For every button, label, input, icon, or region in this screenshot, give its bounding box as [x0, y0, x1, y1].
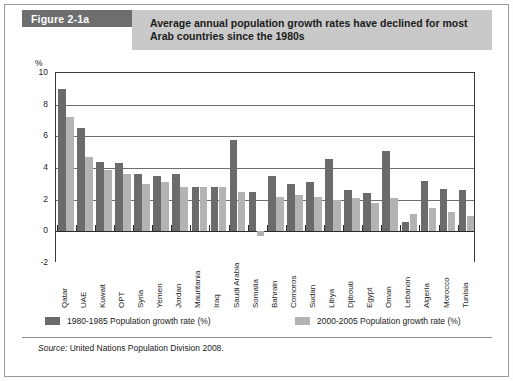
bar-group [266, 73, 285, 262]
bar [410, 214, 418, 231]
x-tick-label: UAE [79, 292, 88, 308]
legend-item: 1980-1985 Population growth rate (%) [45, 316, 211, 326]
legend-divider [22, 337, 492, 338]
legend-swatch [45, 317, 60, 325]
bar [295, 195, 303, 231]
figure-number-tab: Figure 2-1a [22, 10, 132, 27]
x-tick-label: Jordan [174, 284, 183, 308]
bar [161, 182, 169, 231]
bar [459, 190, 467, 231]
bar [448, 212, 456, 231]
axis-tick [400, 225, 401, 231]
bar [77, 128, 85, 231]
x-tick-label: Morocco [442, 277, 451, 308]
bar [352, 198, 360, 231]
bar-group [113, 73, 132, 262]
bar-group [247, 73, 266, 262]
bar [371, 203, 379, 232]
bar [314, 197, 322, 232]
y-tick-label: 8 [43, 99, 48, 109]
axis-tick [95, 225, 96, 231]
bar-group [342, 73, 361, 262]
bar [390, 198, 398, 231]
x-tick-label: Qatar [60, 288, 69, 308]
x-tick-label: OPT [117, 292, 126, 308]
bar-group [381, 73, 400, 262]
axis-tick [152, 225, 153, 231]
bar [172, 174, 180, 231]
axis-tick [419, 225, 420, 231]
bar [306, 182, 314, 231]
x-tick-label: Djibouti [346, 281, 355, 308]
bar [219, 187, 227, 231]
y-axis-tick-labels: -20246810 [0, 72, 52, 294]
plot-area [55, 72, 475, 262]
y-tick-label: 4 [43, 162, 48, 172]
y-tick-label: 2 [43, 194, 48, 204]
bar-group [400, 73, 419, 262]
axis-tick [458, 225, 459, 231]
bar [249, 192, 257, 232]
source-note: Source: United Nations Population Divisi… [38, 343, 224, 353]
bar-group [209, 73, 228, 262]
bar [467, 216, 475, 232]
y-tick-label: 10 [39, 67, 48, 77]
screenshot-root: Figure 2-1a Average annual population gr… [0, 0, 513, 381]
x-tick-label: Somalia [251, 279, 260, 308]
x-tick-label: Libya [327, 289, 336, 308]
bar-group [228, 73, 247, 262]
x-tick-label: Comoros [289, 276, 298, 308]
axis-tick [381, 225, 382, 231]
source-text: United Nations Population Division 2008. [70, 343, 224, 353]
bar [134, 174, 142, 231]
y-tick-label: -2 [40, 257, 48, 267]
x-tick-label: Iraq [212, 294, 221, 308]
legend-item: 2000-2005 Population growth rate (%) [295, 316, 461, 326]
x-tick-label: Mauritania [193, 271, 202, 308]
legend-label: 1980-1985 Population growth rate (%) [67, 316, 211, 326]
bar-group [304, 73, 323, 262]
bar [429, 208, 437, 232]
figure-title-band: Average annual population growth rates h… [132, 10, 492, 50]
bar-group [438, 73, 457, 262]
bar [276, 197, 284, 232]
figure-title: Average annual population growth rates h… [132, 17, 492, 43]
x-tick-label: Egypt [365, 288, 374, 308]
chart-legend: 1980-1985 Population growth rate (%)2000… [45, 316, 475, 330]
bar [66, 117, 74, 231]
axis-tick [439, 225, 440, 231]
bar [85, 157, 93, 231]
bar [440, 189, 448, 232]
bar [153, 176, 161, 231]
bar [230, 140, 238, 232]
bar [200, 187, 208, 231]
bar [115, 163, 123, 231]
x-tick-label: Lebanon [403, 277, 412, 308]
bar-group [56, 73, 75, 262]
legend-label: 2000-2005 Population growth rate (%) [317, 316, 461, 326]
bar [96, 162, 104, 232]
x-tick-label: Tunisia [461, 283, 470, 309]
bar-group [323, 73, 342, 262]
bar [211, 187, 219, 231]
axis-tick [190, 225, 191, 231]
bar-group [171, 73, 190, 262]
figure-header: Figure 2-1a Average annual population gr… [22, 10, 492, 50]
bar [192, 187, 200, 231]
bar-series-container [56, 73, 474, 262]
bar [104, 170, 112, 232]
figure-number-label: Figure 2-1a [22, 13, 89, 25]
bar-group [94, 73, 113, 262]
legend-swatch [295, 317, 310, 325]
bar-group [361, 73, 380, 262]
x-tick-label: Sudan [308, 285, 317, 308]
bar-group [190, 73, 209, 262]
axis-tick [267, 225, 268, 231]
bar [363, 193, 371, 231]
axis-tick [133, 225, 134, 231]
bar [142, 184, 150, 232]
axis-tick [229, 225, 230, 231]
x-tick-label: Yemen [155, 283, 164, 308]
y-tick-label: 0 [43, 225, 48, 235]
axis-tick [362, 225, 363, 231]
